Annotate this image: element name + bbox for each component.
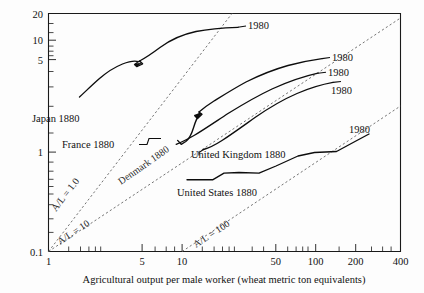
series-japan [80, 27, 239, 97]
annotation-france-1980: 1980 [328, 67, 349, 78]
annotation-france-1880: France 1880 [62, 139, 114, 150]
annotation-japan-1980: 1980 [248, 20, 269, 31]
x-axis-major-ticks [49, 244, 401, 252]
reference-line-al-1 [49, 14, 233, 252]
x-ticklabel-400: 400 [393, 256, 409, 267]
annotation-uk-1980: 1980 [331, 85, 352, 96]
series-france [176, 73, 318, 144]
japan-curve-upper [140, 27, 238, 61]
series-denmark [178, 59, 322, 145]
annotation-uk-1880: United Kingdom 1880 [191, 149, 286, 160]
france-1880-leader [139, 139, 161, 145]
reference-label-al-100: A/L = 100 [191, 218, 232, 250]
y-axis-major-ticks [49, 14, 57, 252]
x-axis-tick-labels: 1 5 10 50 100 200 400 [46, 256, 409, 267]
x-ticklabel-100: 100 [308, 256, 324, 267]
y-ticklabel-0.1: 0.1 [30, 247, 43, 258]
annotation-us-1880: United States 1880 [177, 187, 257, 198]
annotation-denmark-1880: Denmark 1880 [116, 143, 171, 186]
annotation-us-1980: 1980 [349, 124, 370, 135]
x-ticklabel-5: 5 [139, 256, 144, 267]
chart-figure: 20 10 5 1 0.1 1 5 10 50 100 200 400 Agri… [0, 0, 424, 293]
uk-curve [204, 82, 334, 149]
uk-1980-leader [333, 82, 341, 83]
japan-1980-leader [238, 26, 246, 27]
x-ticklabel-50: 50 [271, 256, 282, 267]
annotation-denmark-1980: 1980 [332, 52, 353, 63]
y-ticklabel-1: 1 [38, 147, 43, 158]
chart-svg: 20 10 5 1 0.1 1 5 10 50 100 200 400 Agri… [0, 0, 424, 293]
y-ticklabel-20: 20 [33, 9, 44, 20]
reference-label-al-1: A/L = 1.0 [49, 176, 81, 214]
france-1980-leader [318, 72, 326, 73]
x-axis-minor-ticks [69, 247, 391, 252]
x-ticklabel-1: 1 [46, 256, 51, 267]
plot-border [49, 14, 401, 252]
x-ticklabel-10: 10 [177, 256, 188, 267]
reference-label-al-10: A/L = 10 [55, 217, 91, 246]
reference-lines [49, 14, 401, 252]
annotation-japan-1880: Japan 1880 [32, 113, 80, 124]
plot-frame [49, 14, 401, 252]
france-curve [176, 73, 318, 144]
x-ticklabel-200: 200 [348, 256, 364, 267]
y-ticklabel-5: 5 [38, 55, 43, 66]
y-axis-tick-labels: 20 10 5 1 0.1 [30, 9, 43, 258]
denmark-curve-upper [199, 59, 322, 112]
japan-curve-lower [80, 61, 143, 97]
denmark-1980-leader [322, 58, 330, 59]
series-united-kingdom [204, 82, 334, 149]
y-ticklabel-10: 10 [33, 35, 44, 46]
x-axis-title: Agricultural output per male worker (whe… [83, 274, 366, 286]
